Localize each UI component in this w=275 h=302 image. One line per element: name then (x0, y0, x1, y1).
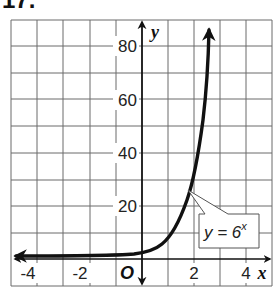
y-tick-80: 80 (118, 37, 137, 56)
curve-y-6x (16, 30, 209, 256)
x-axis-label: x (257, 263, 267, 283)
equation-base: y = 6 (203, 223, 242, 242)
y-axis-label: y (149, 22, 160, 42)
x-tick-neg2: -2 (72, 264, 87, 283)
origin-label: O (120, 263, 134, 283)
x-tick-2: 2 (189, 264, 198, 283)
equation-exponent: x (240, 220, 247, 232)
y-tick-40: 40 (118, 144, 137, 163)
y-tick-60: 60 (118, 91, 137, 110)
x-tick-neg4: -4 (20, 264, 35, 283)
x-tick-4: 4 (241, 264, 250, 283)
y-tick-20: 20 (118, 197, 137, 216)
exponential-graph: 80 60 40 20 -4 -2 2 4 O x y y = 6x (0, 0, 275, 302)
svg-text:y = 6x: y = 6x (203, 220, 247, 242)
equation-callout: y = 6x (188, 190, 259, 248)
